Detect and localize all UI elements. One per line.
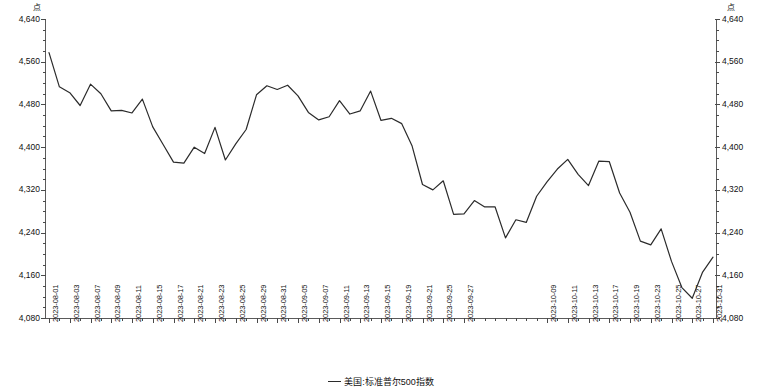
legend-series-label: 美国:标准普尔500指数 — [344, 377, 434, 387]
x-tick-mark — [464, 318, 465, 323]
x-tick-mark — [153, 318, 154, 323]
y-tick-label-right: 4,480 — [722, 100, 762, 109]
x-tick-mark-minor — [506, 318, 507, 321]
y-axis-unit-right: 点 — [727, 3, 735, 13]
x-tick-mark — [257, 318, 258, 323]
y-tick-label-left: 4,480 — [4, 100, 40, 109]
x-tick-mark — [174, 318, 175, 323]
x-tick-mark — [651, 318, 652, 323]
sp500-polyline — [49, 53, 713, 299]
chart-legend: 美国:标准普尔500指数 — [0, 371, 762, 389]
legend-line-swatch — [328, 381, 341, 382]
x-tick-mark-minor — [495, 318, 496, 321]
x-tick-mark — [340, 318, 341, 323]
x-tick-mark — [568, 318, 569, 323]
plot-area — [45, 19, 717, 318]
x-tick-mark — [215, 318, 216, 323]
x-tick-label: 2023-09-21 — [426, 285, 434, 322]
y-tick-label-left: 4,400 — [4, 143, 40, 152]
y-tick-mark — [41, 318, 46, 319]
y-tick-label-right: 4,560 — [722, 57, 762, 66]
x-tick-label: 2023-08-29 — [260, 285, 268, 322]
x-tick-mark — [381, 318, 382, 323]
x-tick-label: 2023-08-21 — [197, 285, 205, 322]
y-tick-label-left: 4,560 — [4, 57, 40, 66]
x-tick-mark — [589, 318, 590, 323]
x-tick-label: 2023-10-27 — [695, 285, 703, 322]
x-tick-label: 2023-08-15 — [156, 285, 164, 322]
x-tick-mark — [547, 318, 548, 323]
x-tick-label: 2023-09-25 — [446, 285, 454, 322]
series-line-sp500 — [45, 19, 717, 318]
y-tick-label-right: 4,640 — [722, 15, 762, 24]
x-tick-mark — [672, 318, 673, 323]
x-tick-mark — [132, 318, 133, 323]
x-tick-mark-minor — [485, 318, 486, 321]
x-tick-label: 2023-09-07 — [322, 285, 330, 322]
x-tick-mark — [298, 318, 299, 323]
y-tick-label-left: 4,160 — [4, 271, 40, 280]
x-tick-mark — [49, 318, 50, 323]
x-tick-label: 2023-08-31 — [280, 285, 288, 322]
x-tick-label: 2023-08-03 — [73, 285, 81, 322]
x-tick-mark — [236, 318, 237, 323]
x-tick-mark — [630, 318, 631, 323]
y-tick-label-right: 4,080 — [722, 314, 762, 323]
y-tick-label-left: 4,320 — [4, 185, 40, 194]
x-tick-label: 2023-10-23 — [654, 285, 662, 322]
x-tick-mark — [423, 318, 424, 323]
x-tick-label: 2023-10-13 — [592, 285, 600, 322]
x-tick-label: 2023-09-27 — [467, 285, 475, 322]
x-tick-label: 2023-08-23 — [218, 285, 226, 322]
x-tick-label: 2023-08-07 — [94, 285, 102, 322]
x-tick-label: 2023-09-19 — [405, 285, 413, 322]
x-tick-mark — [91, 318, 92, 323]
x-tick-label: 2023-09-11 — [343, 285, 351, 322]
x-tick-mark-minor — [526, 318, 527, 321]
x-tick-label: 2023-08-25 — [239, 285, 247, 322]
x-tick-mark — [402, 318, 403, 323]
y-tick-label-left: 4,640 — [4, 15, 40, 24]
x-tick-label: 2023-10-17 — [612, 285, 620, 322]
x-tick-label: 2023-10-09 — [550, 285, 558, 322]
y-tick-label-left: 4,240 — [4, 228, 40, 237]
x-tick-mark-minor — [516, 318, 517, 321]
x-tick-label: 2023-09-13 — [363, 285, 371, 322]
x-tick-mark — [713, 318, 714, 323]
x-tick-label: 2023-08-11 — [135, 285, 143, 322]
x-tick-label: 2023-08-09 — [114, 285, 122, 322]
y-tick-label-right: 4,240 — [722, 228, 762, 237]
y-tick-label-right: 4,400 — [722, 143, 762, 152]
y-tick-label-right: 4,320 — [722, 185, 762, 194]
x-tick-label: 2023-09-15 — [384, 285, 392, 322]
x-tick-label: 2023-08-01 — [52, 285, 60, 322]
x-tick-label: 2023-08-17 — [177, 285, 185, 322]
x-tick-mark — [70, 318, 71, 323]
x-tick-label: 2023-10-11 — [571, 285, 579, 322]
x-tick-label: 2023-09-05 — [301, 285, 309, 322]
x-tick-label: 2023-10-25 — [675, 285, 683, 322]
x-tick-label: 2023-10-19 — [633, 285, 641, 322]
x-tick-mark-minor — [537, 318, 538, 321]
y-tick-label-left: 4,080 — [4, 314, 40, 323]
x-tick-mark — [319, 318, 320, 323]
y-tick-label-right: 4,160 — [722, 271, 762, 280]
x-tick-label: 2023-10-31 — [716, 285, 724, 322]
y-axis-unit-left: 点 — [33, 3, 41, 13]
